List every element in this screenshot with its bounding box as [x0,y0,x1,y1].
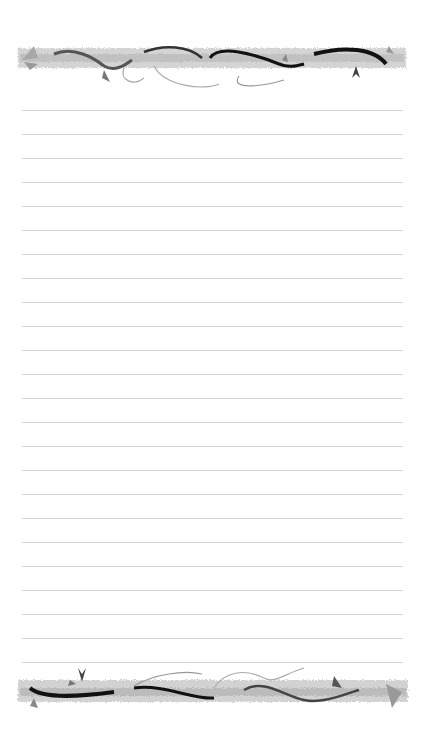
ruled-line [22,422,403,423]
ruled-line [22,566,403,567]
ruled-line [22,614,403,615]
ruled-line [22,278,403,279]
ruled-line [22,134,403,135]
ruled-line [22,182,403,183]
bottom-vine-banner [14,664,414,724]
ruled-line [22,638,403,639]
vine-border-icon [14,664,414,724]
ruled-line [22,374,403,375]
ruled-line [22,158,403,159]
ruled-line [22,326,403,327]
ruled-line [22,230,403,231]
ruled-line [22,494,403,495]
ruled-line [22,542,403,543]
ruled-line [22,302,403,303]
ruled-line [22,254,403,255]
ruled-lines [0,0,433,735]
ruled-line [22,110,403,111]
ruled-line [22,206,403,207]
ruled-line [22,350,403,351]
ruled-line [22,470,403,471]
ruled-line [22,590,403,591]
ruled-line [22,518,403,519]
stationery-page [0,0,433,735]
ruled-line [22,662,403,663]
ruled-line [22,398,403,399]
ruled-line [22,446,403,447]
